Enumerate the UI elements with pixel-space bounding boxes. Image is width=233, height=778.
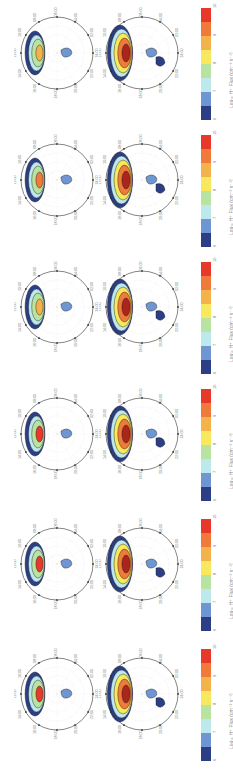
svg-text:08:00: 08:00: [34, 524, 38, 533]
colorbar-tick: 10: [212, 131, 217, 135]
svg-text:14:00: 14:00: [103, 69, 107, 78]
colorbar-tick: 9: [212, 545, 217, 547]
svg-text:04:00: 04:00: [160, 394, 164, 403]
colorbar-segment: [201, 617, 211, 631]
svg-text:14:00: 14:00: [18, 323, 22, 332]
colorbar-segment: [201, 318, 211, 332]
colorbar-segment: [201, 445, 211, 459]
svg-text:18:00: 18:00: [54, 217, 58, 226]
svg-text:22:00: 22:00: [175, 69, 179, 78]
svg-text:22:00: 22:00: [90, 69, 94, 78]
svg-text:04:00: 04:00: [75, 13, 79, 22]
colorbar-segment: [201, 705, 211, 719]
colorbar: [201, 519, 211, 631]
polar-plot-right: 12:0010:0008:0006:0004:0002:0024:0022:00…: [99, 254, 185, 360]
colorbar-segment: [201, 135, 211, 149]
svg-text:08:00: 08:00: [119, 524, 123, 533]
polar-plot-right: 12:0010:0008:0006:0004:0002:0024:0022:00…: [99, 511, 185, 617]
svg-text:06:00: 06:00: [139, 8, 143, 17]
svg-text:18:00: 18:00: [139, 731, 143, 740]
svg-text:04:00: 04:00: [75, 524, 79, 533]
svg-text:08:00: 08:00: [119, 394, 123, 403]
colorbar-tick: 6: [212, 499, 217, 501]
svg-text:20:00: 20:00: [75, 84, 79, 93]
colorbar-tick: 6: [212, 372, 217, 374]
colorbar: [201, 8, 211, 120]
colorbar-tick: 6: [212, 629, 217, 631]
colorbar: [201, 262, 211, 374]
colorbar-segment: [201, 346, 211, 360]
svg-text:22:00: 22:00: [90, 580, 94, 589]
colorbar-segment: [201, 177, 211, 191]
colorbar-ticks: 678910: [212, 519, 220, 631]
svg-text:10:00: 10:00: [103, 282, 107, 291]
colorbar-tick: 7: [212, 471, 217, 473]
polar-plot-left: 12:0010:0008:0006:0004:0002:0024:0022:00…: [14, 0, 100, 106]
colorbar-ticks: 678910: [212, 649, 220, 761]
svg-text:06:00: 06:00: [139, 519, 143, 528]
colorbar-ticks: 678910: [212, 8, 220, 120]
svg-text:10:00: 10:00: [103, 28, 107, 37]
svg-text:18:00: 18:00: [139, 344, 143, 353]
colorbar-ticks: 678910: [212, 135, 220, 247]
svg-text:24:00: 24:00: [180, 49, 184, 58]
polar-plot-right: 12:0010:0008:0006:0004:0002:0024:0022:00…: [99, 127, 185, 233]
svg-text:06:00: 06:00: [54, 389, 58, 398]
svg-text:02:00: 02:00: [175, 669, 179, 678]
colorbar-segment: [201, 50, 211, 64]
svg-text:10:00: 10:00: [18, 155, 22, 164]
colorbar: [201, 135, 211, 247]
colorbar-label: Log₁₀ H⁺ Flux (cm⁻² s⁻¹): [228, 563, 233, 619]
panel-row-4: 12:0010:0008:0006:0004:0002:0024:0022:00…: [0, 381, 233, 509]
colorbar-tick: 6: [212, 118, 217, 120]
svg-text:14:00: 14:00: [18, 196, 22, 205]
colorbar-segment: [201, 561, 211, 575]
svg-text:14:00: 14:00: [103, 710, 107, 719]
svg-text:16:00: 16:00: [34, 595, 38, 604]
svg-text:04:00: 04:00: [75, 140, 79, 149]
colorbar-segment: [201, 473, 211, 487]
panel-row-5: 12:0010:0008:0006:0004:0002:0024:0022:00…: [0, 511, 233, 639]
colorbar-tick: 7: [212, 731, 217, 733]
colorbar-ticks: 678910: [212, 389, 220, 501]
svg-text:04:00: 04:00: [160, 140, 164, 149]
svg-text:10:00: 10:00: [103, 669, 107, 678]
svg-text:14:00: 14:00: [18, 69, 22, 78]
colorbar-segment: [201, 459, 211, 473]
svg-text:02:00: 02:00: [175, 155, 179, 164]
svg-text:22:00: 22:00: [90, 450, 94, 459]
svg-text:20:00: 20:00: [75, 211, 79, 220]
colorbar-segment: [201, 547, 211, 561]
colorbar-segment: [201, 78, 211, 92]
colorbar-segment: [201, 8, 211, 22]
svg-text:14:00: 14:00: [18, 450, 22, 459]
colorbar-segment: [201, 677, 211, 691]
svg-text:08:00: 08:00: [34, 394, 38, 403]
svg-text:20:00: 20:00: [160, 595, 164, 604]
svg-text:12:00: 12:00: [99, 49, 102, 58]
svg-text:24:00: 24:00: [180, 560, 184, 569]
svg-text:04:00: 04:00: [75, 654, 79, 663]
polar-plot-left: 12:0010:0008:0006:0004:0002:0024:0022:00…: [14, 511, 100, 617]
svg-text:06:00: 06:00: [54, 135, 58, 144]
svg-text:20:00: 20:00: [75, 465, 79, 474]
colorbar-segment: [201, 403, 211, 417]
svg-text:10:00: 10:00: [18, 539, 22, 548]
svg-text:06:00: 06:00: [54, 519, 58, 528]
polar-plot-right: 12:0010:0008:0006:0004:0002:0024:0022:00…: [99, 641, 185, 747]
svg-text:04:00: 04:00: [160, 267, 164, 276]
svg-text:16:00: 16:00: [119, 338, 123, 347]
svg-text:16:00: 16:00: [119, 211, 123, 220]
colorbar-segment: [201, 719, 211, 733]
svg-text:02:00: 02:00: [175, 409, 179, 418]
colorbar-tick: 9: [212, 675, 217, 677]
svg-text:22:00: 22:00: [175, 580, 179, 589]
colorbar-segment: [201, 431, 211, 445]
svg-text:20:00: 20:00: [160, 84, 164, 93]
svg-text:20:00: 20:00: [160, 338, 164, 347]
colorbar-tick: 6: [212, 759, 217, 761]
panel-row-6: 12:0010:0008:0006:0004:0002:0024:0022:00…: [0, 641, 233, 769]
colorbar-segment: [201, 519, 211, 533]
svg-text:04:00: 04:00: [75, 394, 79, 403]
svg-text:02:00: 02:00: [175, 282, 179, 291]
